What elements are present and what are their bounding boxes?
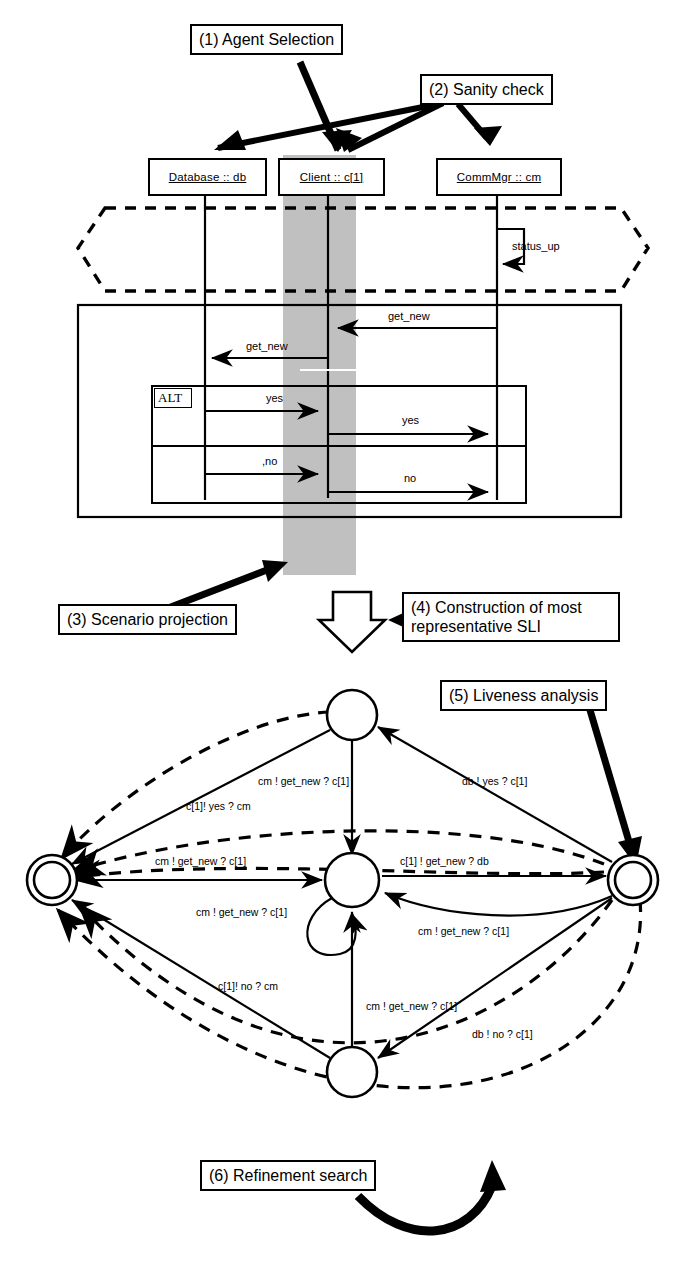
state-left-inner [34,862,70,898]
lifeline-label-commmgr: CommMgr :: cm [457,171,541,183]
state-center [325,853,379,907]
alt-fragment-label: ALT [154,388,192,408]
callout-4[interactable]: (4) Construction of most representative … [402,592,620,642]
edge-label-center-self: cm ! get_new ? c[1] [196,906,287,918]
sanity-check-region [78,208,648,291]
lifeline-head-client[interactable]: Client :: c[1] [278,158,385,196]
message-label-status-up: status_up [512,240,560,252]
edge-label-center-to-right: c[1] ! get_new ? db [400,855,489,867]
callout-6[interactable]: (6) Refinement search [200,1160,376,1191]
edge-label-top-to-left: c[1]! yes ? cm [186,800,251,812]
state-bottom [327,1047,377,1097]
callout-5[interactable]: (5) Liveness analysis [440,680,607,711]
callout-2[interactable]: (2) Sanity check [420,74,553,105]
message-label-no-client: no [404,472,416,484]
lifeline-label-client: Client :: c[1] [300,171,364,183]
callout5-pointer [590,710,642,866]
message-label-get-new-client: get_new [246,340,288,352]
callout6-pointer [358,1160,506,1231]
scenario-projection-band [283,155,356,575]
state-right-inner [615,862,651,898]
edge-label-right-to-bottom: db ! no ? c[1] [472,1028,533,1040]
edge-label-top-to-center: cm ! get_new ? c[1] [258,775,349,787]
edge-label-left-to-center: cm ! get_new ? c[1] [155,855,246,867]
edge-label-bottom-to-center: cm ! get_new ? c[1] [366,1000,457,1012]
lifeline-head-commmgr[interactable]: CommMgr :: cm [436,158,562,196]
callout-1[interactable]: (1) Agent Selection [190,24,343,55]
state-top [327,690,377,740]
edge-label-right-to-top: db ! yes ? c[1] [462,775,527,787]
edge-label-right-to-center: cm ! get_new ? c[1] [418,925,509,937]
process-flow-arrow [319,592,385,652]
lifeline-head-database[interactable]: Database :: db [148,158,267,196]
lifeline-label-database: Database :: db [169,171,247,183]
edge-label-bottom-to-left: c[1]! no ? cm [218,980,278,992]
message-label-yes-client: yes [402,414,419,426]
figure-canvas: (1) Agent Selection (2) Sanity check (3)… [0,0,686,1268]
message-label-yes-db: yes [266,392,283,404]
message-label-get-new-cm: get_new [388,310,430,322]
callout-3[interactable]: (3) Scenario projection [58,604,237,635]
automaton-states [27,690,658,1097]
message-label-no-db: ,no [262,455,277,467]
